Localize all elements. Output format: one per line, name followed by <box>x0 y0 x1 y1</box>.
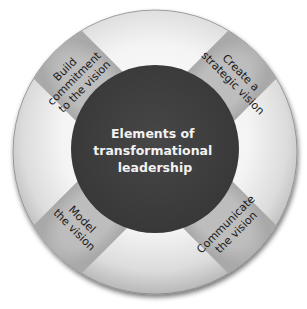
center-line-2: transformational <box>93 143 212 158</box>
transformational-leadership-diagram: Elements of transformational leadership … <box>0 0 307 309</box>
center-line-1: Elements of <box>111 126 195 141</box>
center-line-3: leadership <box>118 160 192 175</box>
